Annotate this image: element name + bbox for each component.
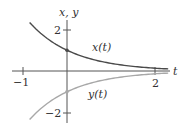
curve-label-x: x(t)	[92, 41, 111, 54]
y0-point	[65, 90, 69, 94]
tick-label-y-2: 2	[54, 24, 61, 37]
curve-label-y: y(t)	[87, 88, 107, 101]
y-axis-label: x, y	[59, 6, 79, 19]
tick-label-t-neg1: −1	[13, 76, 29, 89]
tick-label-y-neg2: −2	[45, 107, 61, 120]
chart-canvas: x, y t −1 2 2 −2 x(t) y(t)	[0, 0, 184, 126]
x0-point	[65, 49, 69, 53]
x-axis-label: t	[173, 65, 178, 78]
tick-label-t-2: 2	[152, 77, 159, 90]
